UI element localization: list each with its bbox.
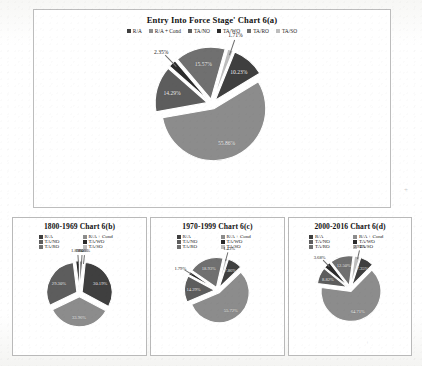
legend-swatch-icon [309, 245, 313, 249]
data-label: 1.71% [228, 32, 242, 38]
legend-swatch-icon [177, 235, 181, 239]
data-label: 10.23% [230, 69, 247, 75]
chart-6c-plot-area: 7.86%55.72%14.29%1.79%18.93%1.43% [151, 249, 284, 335]
data-label: 2.94% [354, 244, 366, 249]
chart-6b-title: 1800-1969 Chart 6(b) [13, 222, 146, 231]
data-label: 55.72% [224, 308, 238, 313]
chart-6a-plot-area: 10.23%55.86%14.29%2.35%15.57%1.71% [34, 34, 390, 174]
legend-swatch-icon [309, 240, 313, 244]
legend-swatch-icon [217, 29, 221, 33]
data-label: 8.82% [322, 277, 334, 282]
scan-corner-mark-2: + [366, 340, 369, 345]
data-label: 3.68% [314, 255, 326, 260]
data-label: 15.57% [195, 61, 212, 67]
legend-swatch-icon [221, 240, 225, 244]
data-label: 18.93% [202, 265, 216, 270]
legend-swatch-icon [177, 245, 181, 249]
data-label: 55.86% [218, 140, 235, 146]
data-label: 14.29% [164, 90, 181, 96]
data-label: 14.29% [186, 287, 200, 292]
legend-swatch-icon [39, 235, 43, 239]
chart-panel-6a: Entry Into Force Stage' Chart 6(a) R/AR/… [33, 9, 391, 208]
data-label: 64.71% [351, 309, 365, 314]
legend-swatch-icon [39, 240, 43, 244]
chart-6c-pie [151, 249, 284, 335]
chart-6d-plot-area: 7.35%64.71%8.82%3.68%12.50%2.94% [289, 249, 411, 335]
data-label: 7.35% [357, 266, 369, 271]
legend-swatch-icon [83, 240, 87, 244]
data-label: 33.96% [72, 315, 86, 320]
legend-swatch-icon [177, 240, 181, 244]
scan-corner-mark: + [404, 186, 408, 194]
legend-swatch-icon [188, 29, 192, 33]
chart-6a-pie [34, 34, 390, 174]
data-label: 0.00% [78, 248, 90, 253]
legend-swatch-icon [276, 29, 280, 33]
legend-swatch-icon [353, 235, 357, 239]
chart-6d-title: 2000-2016 Chart 6(d) [289, 222, 411, 231]
legend-swatch-icon [247, 29, 251, 33]
chart-6d-legend: R/AR/A + CondTA/NOTA/WOTA/ROTA/SO [289, 234, 411, 249]
legend-swatch-icon [127, 29, 131, 33]
legend-swatch-icon [221, 235, 225, 239]
data-label: 7.86% [224, 267, 236, 272]
data-label: 2.35% [154, 49, 168, 55]
chart-6b-plot-area: 30.19%33.96%29.30%1.89%1.60%0.00% [13, 249, 146, 335]
chart-panel-6b: 1800-1969 Chart 6(b) R/AR/A + CondTA/NOT… [12, 217, 147, 356]
legend-swatch-icon [149, 29, 153, 33]
pie-c-svg [151, 249, 284, 335]
figure-page: Entry Into Force Stage' Chart 6(a) R/AR/… [0, 0, 422, 366]
chart-6c-title: 1970-1999 Chart 6(c) [151, 222, 284, 231]
chart-panel-6c: 1970-1999 Chart 6(c) R/AR/A + CondTA/NOT… [150, 217, 285, 356]
chart-6b-pie [13, 249, 146, 335]
pie-a-svg [34, 34, 390, 174]
chart-panel-6d: 2000-2016 Chart 6(d) R/AR/A + CondTA/NOT… [288, 217, 412, 356]
label-leader-line [77, 255, 79, 264]
legend-swatch-icon [83, 235, 87, 239]
data-label: 1.43% [223, 246, 235, 251]
legend-swatch-icon [39, 245, 43, 249]
chart-6c-legend: R/AR/A + CondTA/NOTA/WOTA/ROTA/SO [151, 234, 284, 249]
data-label: 12.50% [337, 263, 351, 268]
data-label: 29.30% [52, 280, 66, 285]
legend-swatch-icon [309, 235, 313, 239]
chart-6a-title: Entry Into Force Stage' Chart 6(a) [34, 15, 390, 25]
pie-b-svg [13, 249, 146, 335]
data-label: 30.19% [93, 280, 107, 285]
